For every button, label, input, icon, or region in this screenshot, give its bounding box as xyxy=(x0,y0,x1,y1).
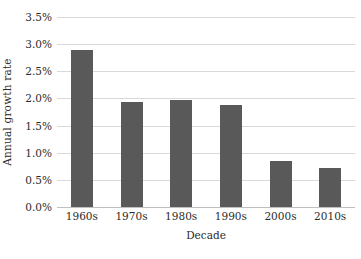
gridline xyxy=(57,207,355,208)
y-tick-label: 3.0% xyxy=(0,39,52,50)
y-tick-label: 3.5% xyxy=(0,12,52,23)
x-tick-label: 1980s xyxy=(156,211,206,222)
y-axis-title: Annual growth rate xyxy=(1,58,13,166)
x-tick-label: 1970s xyxy=(107,211,157,222)
bar xyxy=(270,161,292,207)
bar-chart: 3.5%3.0%2.5%2.0%1.5%1.0%0.5%0.0% Annual … xyxy=(0,0,361,259)
bar xyxy=(71,50,93,207)
y-tick-label: 0.0% xyxy=(0,202,52,213)
gridline xyxy=(57,126,355,127)
x-tick-label: 1960s xyxy=(57,211,107,222)
x-tick-label: 2000s xyxy=(256,211,306,222)
gridline xyxy=(57,44,355,45)
x-axis-title: Decade xyxy=(57,229,355,241)
x-tick-label: 1990s xyxy=(206,211,256,222)
gridline xyxy=(57,153,355,154)
y-axis-title-wrap: Annual growth rate xyxy=(0,17,1,207)
gridline xyxy=(57,180,355,181)
x-axis-tick-labels: 1960s1970s1980s1990s2000s2010s xyxy=(57,211,355,227)
bar xyxy=(121,102,143,207)
bar xyxy=(319,168,341,207)
gridline xyxy=(57,71,355,72)
gridline xyxy=(57,98,355,99)
bar xyxy=(170,100,192,207)
plot-area xyxy=(57,17,355,207)
gridline xyxy=(57,17,355,18)
y-tick-label: 0.5% xyxy=(0,175,52,186)
bar xyxy=(220,105,242,207)
x-tick-label: 2010s xyxy=(305,211,355,222)
